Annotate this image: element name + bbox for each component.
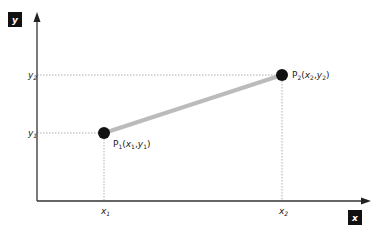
- point-p1: [98, 127, 110, 139]
- point-p2: [276, 69, 288, 81]
- tick-y1: y1: [27, 128, 37, 139]
- y-axis-arrow-icon: [34, 12, 41, 22]
- coordinate-diagram: y x y2 y1 x1 x2 P1(x1,y1) P2(x2,y2): [0, 0, 381, 230]
- tick-x2: x2: [278, 206, 288, 217]
- p1-label: P1(x1,y1): [113, 139, 150, 150]
- tick-x1: x1: [100, 206, 110, 217]
- p2-label: P2(x2,y2): [292, 70, 329, 81]
- tick-y2: y2: [27, 70, 37, 81]
- x-axis-arrow-icon: [361, 198, 371, 205]
- line-segment: [104, 75, 282, 133]
- x-axis-label: x: [351, 213, 359, 223]
